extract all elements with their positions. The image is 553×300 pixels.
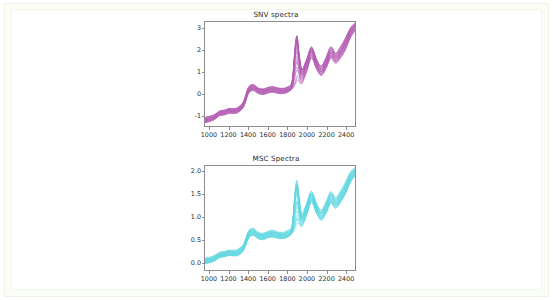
x-tick-label: 2200	[318, 275, 334, 283]
y-tick-mark	[202, 217, 205, 218]
panel-snv-spectra: SNV spectra 3 2 1 0 -1 1000 1200 1400 16…	[178, 10, 374, 150]
x-tick-mark	[229, 271, 230, 274]
x-tick-mark	[307, 271, 308, 274]
y-tick-mark	[202, 171, 205, 172]
x-tick-label: 2000	[299, 131, 315, 139]
x-tick-label: 2000	[299, 275, 315, 283]
panel-title-msc: MSC Spectra	[178, 154, 374, 163]
x-tick-mark	[268, 271, 269, 274]
y-tick-label: 1.0	[191, 213, 201, 221]
y-tick-label: 2.0	[191, 167, 201, 175]
x-tick-label: 1200	[220, 131, 236, 139]
x-tick-mark	[268, 127, 269, 130]
tick-layer-msc: 2.0 1.5 1.0 0.5 0.0 1000 1200 1400 1600 …	[204, 165, 356, 271]
x-tick-label: 1800	[279, 275, 295, 283]
x-tick-mark	[209, 271, 210, 274]
x-tick-mark	[209, 127, 210, 130]
x-tick-label: 1800	[279, 131, 295, 139]
panel-msc-spectra: MSC Spectra 2.0 1.5 1.0 0.5 0.0 1000 120…	[178, 154, 374, 294]
x-tick-label: 2200	[318, 131, 334, 139]
x-tick-mark	[248, 127, 249, 130]
y-tick-label: 0.0	[191, 259, 201, 267]
x-tick-label: 1600	[260, 275, 276, 283]
x-tick-mark	[346, 271, 347, 274]
y-tick-label: 3	[197, 24, 201, 32]
y-tick-mark	[202, 50, 205, 51]
y-tick-mark	[202, 240, 205, 241]
x-tick-label: 2400	[338, 131, 354, 139]
x-tick-mark	[307, 127, 308, 130]
x-tick-mark	[287, 271, 288, 274]
y-tick-mark	[202, 72, 205, 73]
x-tick-mark	[287, 127, 288, 130]
y-tick-mark	[202, 263, 205, 264]
x-tick-label: 1000	[201, 131, 217, 139]
x-tick-mark	[327, 127, 328, 130]
y-tick-mark	[202, 94, 205, 95]
x-tick-label: 1400	[240, 131, 256, 139]
y-tick-label: 0	[197, 90, 201, 98]
matplotlib-figure: SNV spectra 3 2 1 0 -1 1000 1200 1400 16…	[178, 8, 374, 294]
x-tick-label: 1200	[220, 275, 236, 283]
x-tick-label: 2400	[338, 275, 354, 283]
x-tick-mark	[248, 271, 249, 274]
x-tick-mark	[346, 127, 347, 130]
y-tick-label: 1.5	[191, 190, 201, 198]
y-tick-label: 1	[197, 68, 201, 76]
x-tick-label: 1600	[260, 131, 276, 139]
tick-layer-snv: 3 2 1 0 -1 1000 1200 1400 1600 1800 2000…	[204, 21, 356, 127]
x-tick-mark	[327, 271, 328, 274]
y-tick-label: -1	[195, 112, 201, 120]
y-tick-mark	[202, 194, 205, 195]
slide-canvas: SNV spectra 3 2 1 0 -1 1000 1200 1400 16…	[0, 0, 553, 300]
x-tick-label: 1000	[201, 275, 217, 283]
y-tick-mark	[202, 116, 205, 117]
panel-title-snv: SNV spectra	[178, 10, 374, 19]
y-tick-label: 2	[197, 46, 201, 54]
y-tick-mark	[202, 28, 205, 29]
y-tick-label: 0.5	[191, 236, 201, 244]
x-tick-label: 1400	[240, 275, 256, 283]
x-tick-mark	[229, 127, 230, 130]
